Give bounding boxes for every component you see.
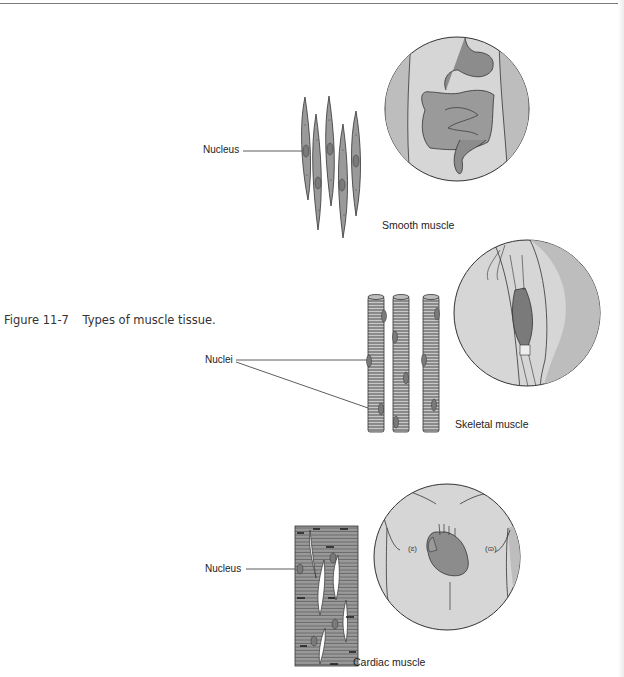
chest-heart-inset-icon: (ɛ) (ɷ)	[0, 0, 624, 677]
svg-text:(ɷ): (ɷ)	[485, 544, 497, 553]
svg-text:(ɛ): (ɛ)	[408, 544, 417, 553]
cardiac-muscle-title: Cardiac muscle	[353, 656, 425, 668]
